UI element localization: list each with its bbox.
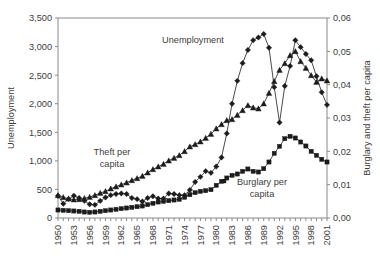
x-tick-label: 1965: [132, 225, 142, 245]
marker-square: [277, 144, 281, 148]
marker-diamond: [282, 83, 287, 88]
marker-square: [309, 149, 313, 153]
marker-triangle: [298, 59, 304, 64]
marker-square: [140, 204, 144, 208]
marker-square: [124, 206, 128, 210]
x-tick-label: 1950: [53, 225, 63, 245]
marker-diamond: [119, 191, 124, 196]
marker-triangle: [166, 158, 172, 163]
x-tick-label: 1980: [211, 225, 221, 245]
marker-diamond: [177, 192, 182, 197]
marker-square: [241, 169, 245, 173]
marker-diamond: [314, 74, 319, 79]
marker-square: [267, 160, 271, 164]
marker-square: [182, 195, 186, 199]
marker-square: [156, 200, 160, 204]
marker-square: [283, 137, 287, 141]
y-tick-label: 2,500: [29, 71, 52, 81]
x-tick-label: 1956: [85, 225, 95, 245]
marker-square: [56, 208, 60, 212]
marker-diamond: [277, 120, 282, 125]
marker-square: [262, 167, 266, 171]
x-tick-label: 1971: [164, 225, 174, 245]
marker-square: [314, 153, 318, 157]
marker-triangle: [108, 186, 114, 191]
x-tick-label: 2001: [322, 225, 332, 245]
marker-square: [214, 183, 218, 187]
marker-triangle: [271, 79, 277, 84]
marker-diamond: [245, 47, 250, 52]
marker-square: [209, 188, 213, 192]
marker-square: [119, 207, 123, 211]
marker-triangle: [324, 78, 330, 83]
marker-diamond: [113, 191, 118, 196]
marker-triangle: [250, 105, 256, 110]
y-tick-label: 500: [37, 185, 52, 195]
y-tick-label: 3,500: [29, 13, 52, 23]
marker-triangle: [150, 167, 156, 172]
marker-triangle: [282, 61, 288, 66]
marker-triangle: [266, 90, 272, 95]
marker-triangle: [177, 153, 183, 158]
marker-square: [130, 205, 134, 209]
y2-tick-label: 0,00: [333, 213, 351, 223]
marker-triangle: [92, 193, 98, 198]
marker-diamond: [240, 60, 245, 65]
chart-container: 05001,0001,5002,0002,5003,0003,5000,000,…: [0, 0, 380, 263]
x-tick-label: 1959: [101, 225, 111, 245]
marker-triangle: [134, 176, 140, 181]
marker-diamond: [256, 35, 261, 40]
series-label-burglary-line1: Burglary per: [237, 177, 287, 187]
marker-square: [93, 210, 97, 214]
marker-triangle: [161, 161, 167, 166]
marker-triangle: [171, 155, 177, 160]
series-annotations: Unemployment Theft per capita Burglary p…: [94, 35, 287, 199]
marker-triangle: [140, 173, 146, 178]
x-tick-label: 1983: [227, 225, 237, 245]
marker-triangle: [60, 195, 66, 200]
marker-diamond: [324, 102, 329, 107]
y-axis-title: Unemployment: [6, 87, 16, 149]
marker-square: [66, 209, 70, 213]
marker-triangle: [261, 101, 267, 106]
marker-triangle: [118, 182, 124, 187]
marker-square: [88, 210, 92, 214]
x-tick-label: 1995: [291, 225, 301, 245]
marker-diamond: [145, 195, 150, 200]
marker-diamond: [219, 155, 224, 160]
marker-diamond: [319, 90, 324, 95]
marker-square: [72, 209, 76, 213]
marker-diamond: [171, 191, 176, 196]
marker-triangle: [192, 142, 198, 147]
marker-square: [198, 189, 202, 193]
marker-square: [256, 170, 260, 174]
x-tick-label: 1977: [196, 225, 206, 245]
series-label-unemployment: Unemployment: [162, 35, 224, 45]
marker-square: [177, 197, 181, 201]
marker-square: [204, 189, 208, 193]
y2-axis-title: Burglary and theft per capita: [362, 59, 372, 175]
marker-square: [288, 134, 292, 138]
x-tick-label: 1986: [243, 225, 253, 245]
marker-square: [82, 210, 86, 214]
x-tick-label: 1989: [259, 225, 269, 245]
marker-triangle: [203, 135, 209, 140]
marker-square: [325, 160, 329, 164]
y2-tick-label: 0,02: [333, 147, 351, 157]
marker-square: [172, 198, 176, 202]
marker-diamond: [261, 31, 266, 36]
marker-triangle: [155, 164, 161, 169]
marker-diamond: [87, 202, 92, 207]
y-tick-label: 2,000: [29, 99, 52, 109]
marker-square: [246, 167, 250, 171]
marker-diamond: [103, 195, 108, 200]
marker-triangle: [198, 139, 204, 144]
x-tick-label: 1962: [116, 225, 126, 245]
marker-square: [109, 208, 113, 212]
y2-tick-label: 0,03: [333, 113, 351, 123]
marker-square: [98, 209, 102, 213]
marker-square: [293, 136, 297, 140]
y2-tick-label: 0,04: [333, 80, 351, 90]
y-tick-label: 1,500: [29, 128, 52, 138]
marker-triangle: [103, 189, 109, 194]
